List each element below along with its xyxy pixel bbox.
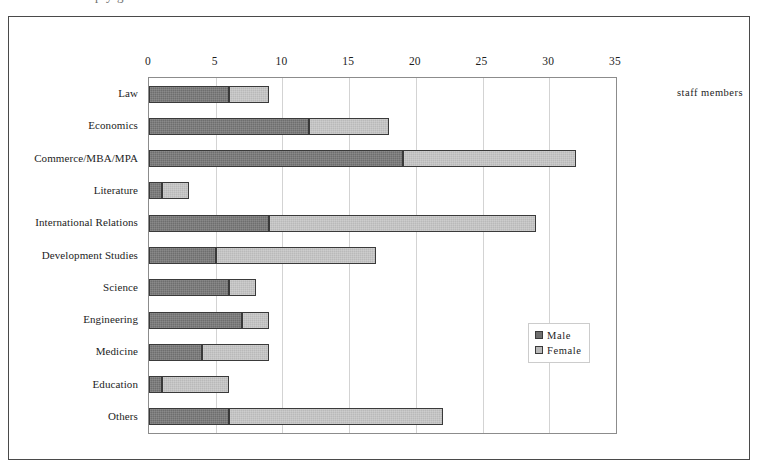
y-category-label: Commerce/MBA/MPA <box>34 152 138 164</box>
y-category-label: International Relations <box>35 216 138 228</box>
bar-segment-male <box>149 215 269 232</box>
y-category-label: Science <box>103 281 138 293</box>
bar-segment-male <box>149 408 229 425</box>
bar-segment-female <box>162 182 189 199</box>
y-category-label: Medicine <box>96 345 138 357</box>
cut-off-caption-strip: p y g <box>0 0 763 13</box>
bar-segment-female <box>229 86 269 103</box>
bar-segment-female <box>216 247 376 264</box>
x-tick-label: 30 <box>542 55 554 67</box>
bar-row <box>149 182 616 199</box>
cut-off-caption-text: p y g <box>95 0 124 4</box>
bar-segment-male <box>149 182 162 199</box>
bar-row <box>149 150 616 167</box>
legend-label: Male <box>547 330 571 341</box>
bar-segment-male <box>149 86 229 103</box>
legend-swatch-icon <box>535 331 543 339</box>
bar-segment-female <box>269 215 536 232</box>
y-category-label: Law <box>118 87 138 99</box>
unit-caption: staff members <box>677 87 743 98</box>
y-axis-category-labels: LawEconomicsCommerce/MBA/MPALiteratureIn… <box>9 77 142 434</box>
bar-segment-female <box>162 376 229 393</box>
bar-segment-female <box>309 118 389 135</box>
y-category-label: Engineering <box>83 313 138 325</box>
y-category-label: Economics <box>88 119 138 131</box>
x-tick-label: 35 <box>609 55 621 67</box>
y-category-label: Education <box>93 378 139 390</box>
bar-row <box>149 408 616 425</box>
x-tick-label: 15 <box>342 55 354 67</box>
chart-legend: MaleFemale <box>528 323 590 363</box>
y-category-label: Literature <box>94 184 138 196</box>
bar-segment-female <box>242 312 269 329</box>
bar-row <box>149 279 616 296</box>
y-category-label: Others <box>108 410 138 422</box>
bar-segment-female <box>202 344 269 361</box>
bar-segment-male <box>149 279 229 296</box>
male-legend-entry: Male <box>535 328 582 342</box>
bar-segment-male <box>149 344 202 361</box>
x-tick-label: 10 <box>275 55 287 67</box>
bar-segment-male <box>149 247 216 264</box>
bar-segment-female <box>403 150 576 167</box>
bar-row <box>149 376 616 393</box>
bar-segment-male <box>149 312 242 329</box>
bar-segment-male <box>149 150 403 167</box>
x-tick-label: 20 <box>409 55 421 67</box>
bar-row <box>149 118 616 135</box>
female-legend-entry: Female <box>535 343 582 357</box>
bar-row <box>149 86 616 103</box>
bar-segment-male <box>149 376 162 393</box>
figure-frame: 05101520253035 LawEconomicsCommerce/MBA/… <box>8 16 750 460</box>
bar-segment-female <box>229 408 442 425</box>
bar-segment-female <box>229 279 256 296</box>
legend-swatch-icon <box>535 346 543 354</box>
x-tick-label: 0 <box>145 55 151 67</box>
bar-row <box>149 247 616 264</box>
y-category-label: Development Studies <box>42 249 138 261</box>
x-axis-tick-labels: 05101520253035 <box>148 55 617 73</box>
x-tick-label: 25 <box>476 55 488 67</box>
plot-area <box>148 77 617 434</box>
legend-label: Female <box>547 345 582 356</box>
bar-segment-male <box>149 118 309 135</box>
bar-row <box>149 215 616 232</box>
x-tick-label: 5 <box>212 55 218 67</box>
